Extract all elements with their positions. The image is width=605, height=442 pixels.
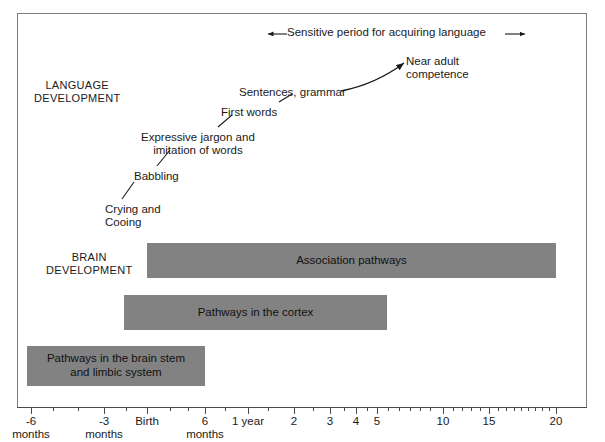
axis-tick-minor	[399, 407, 400, 411]
axis-tick-minor	[535, 407, 536, 411]
axis-tick-major	[489, 407, 490, 414]
axis-tick-minor	[410, 407, 411, 411]
axis-tick-minor	[514, 407, 515, 411]
axis-tick-minor	[344, 407, 345, 411]
axis-tick-minor	[268, 407, 269, 411]
milestone-first-words: First words	[221, 106, 277, 119]
axis-tick-major	[356, 407, 357, 414]
milestone-crying-and-cooing: Crying and Cooing	[105, 203, 161, 230]
axis-tick-label: -6 months	[0, 415, 71, 441]
axis-tick-minor	[480, 407, 481, 411]
axis-tick-minor	[528, 407, 529, 411]
axis-tick-minor	[313, 407, 314, 411]
axis-tick-major	[294, 407, 295, 414]
axis-tick-minor	[549, 407, 550, 411]
axis-tick-minor	[420, 407, 421, 411]
bar-association-pathways: Association pathways	[147, 243, 556, 278]
axis-tick-minor	[53, 407, 54, 411]
axis-tick-minor	[126, 407, 127, 411]
axis-tick-minor	[388, 407, 389, 411]
axis-tick-minor	[430, 407, 431, 411]
axis-tick-major	[205, 407, 206, 414]
time-axis-line	[17, 407, 587, 408]
milestone-near-adult-competence: Near adult competence	[406, 55, 469, 82]
axis-tick-major	[443, 407, 444, 414]
milestone-expressive-jargon: Expressive jargon and imitation of words	[141, 131, 255, 158]
axis-tick-major	[104, 407, 105, 414]
sensitive-period-label: Sensitive period for acquiring language	[287, 26, 486, 38]
axis-tick-minor	[471, 407, 472, 411]
axis-tick-minor	[521, 407, 522, 411]
axis-tick-minor	[170, 407, 171, 411]
axis-tick-label: 20	[516, 415, 596, 428]
axis-tick-minor	[367, 407, 368, 411]
axis-tick-major	[248, 407, 249, 414]
axis-tick-minor	[462, 407, 463, 411]
axis-tick-major	[556, 407, 557, 414]
axis-tick-major	[147, 407, 148, 414]
language-development-heading: LANGUAGE DEVELOPMENT	[34, 79, 120, 105]
axis-tick-major	[377, 407, 378, 414]
axis-tick-minor	[188, 407, 189, 411]
bar-pathways-brain-stem-limbic: Pathways in the brain stem and limbic sy…	[27, 346, 205, 386]
brain-development-heading: BRAIN DEVELOPMENT	[46, 251, 132, 277]
sensitive-period-annotation: Sensitive period for acquiring language	[265, 26, 530, 42]
axis-tick-minor	[78, 407, 79, 411]
milestone-babbling: Babbling	[134, 170, 179, 183]
axis-tick-minor	[498, 407, 499, 411]
axis-tick-minor	[453, 407, 454, 411]
bar-pathways-in-the-cortex: Pathways in the cortex	[124, 295, 387, 330]
axis-tick-major	[31, 407, 32, 414]
milestone-sentences-grammar: Sentences, grammar	[239, 86, 346, 99]
axis-tick-major	[330, 407, 331, 414]
axis-tick-minor	[506, 407, 507, 411]
axis-tick-minor	[542, 407, 543, 411]
axis-tick-minor	[225, 407, 226, 411]
